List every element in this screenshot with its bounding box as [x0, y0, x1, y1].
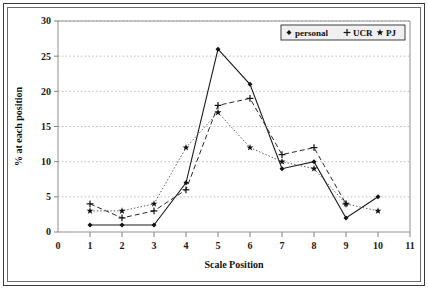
marker-ucr-x6 — [247, 95, 254, 102]
marker-personal-x2 — [120, 222, 125, 227]
series-markers-group — [87, 47, 382, 228]
y-tick-label-25: 25 — [41, 51, 51, 62]
x-tick-label-1: 1 — [88, 240, 93, 251]
marker-ucr-x4 — [183, 186, 190, 193]
gridlines-group — [58, 21, 410, 197]
series-line-ucr — [90, 98, 346, 218]
y-tick-label-20: 20 — [41, 86, 51, 97]
marker-ucr-x8 — [311, 144, 318, 151]
marker-personal-x8 — [312, 159, 317, 164]
x-axis-ticks-group: 01234567891011 — [56, 232, 415, 251]
y-tick-label-10: 10 — [41, 156, 51, 167]
x-tick-label-8: 8 — [312, 240, 317, 251]
marker-ucr-x5 — [215, 102, 222, 109]
x-tick-label-2: 2 — [120, 240, 125, 251]
x-tick-label-0: 0 — [56, 240, 61, 251]
marker-personal-x1 — [88, 222, 93, 227]
marker-pj-x10 — [375, 207, 382, 214]
x-tick-label-5: 5 — [216, 240, 221, 251]
chart-plot-area: 01234567891011 051015202530 personalUCRP… — [0, 0, 428, 289]
x-tick-label-9: 9 — [344, 240, 349, 251]
x-tick-label-10: 10 — [373, 240, 383, 251]
x-axis-label: Scale Position — [204, 259, 264, 270]
legend-label-pj: PJ — [386, 28, 396, 38]
x-tick-label-4: 4 — [184, 240, 189, 251]
y-axis-ticks-group: 051015202530 — [41, 15, 58, 237]
series-lines-group — [90, 49, 378, 225]
y-tick-label-30: 30 — [41, 15, 51, 26]
x-tick-label-7: 7 — [280, 240, 285, 251]
x-tick-label-3: 3 — [152, 240, 157, 251]
marker-ucr-x1 — [87, 200, 94, 207]
legend-label-personal: personal — [295, 28, 329, 38]
marker-personal-x7 — [280, 166, 285, 171]
marker-ucr-x3 — [151, 208, 158, 215]
y-tick-label-0: 0 — [46, 226, 51, 237]
legend-label-ucr: UCR — [353, 28, 373, 38]
y-tick-label-5: 5 — [46, 191, 51, 202]
marker-pj-x2 — [119, 207, 126, 214]
series-line-personal — [90, 49, 378, 225]
x-tick-label-6: 6 — [248, 240, 253, 251]
line-chart: 01234567891011 051015202530 personalUCRP… — [0, 0, 428, 289]
y-tick-label-15: 15 — [41, 121, 51, 132]
marker-pj-x1 — [87, 207, 94, 214]
chart-legend: personalUCRPJ — [281, 25, 405, 40]
marker-ucr-x7 — [279, 151, 286, 158]
figure-container: 01234567891011 051015202530 personalUCRP… — [0, 0, 428, 289]
marker-pj-x3 — [151, 200, 158, 207]
y-axis-label: % at each position — [13, 86, 24, 166]
marker-ucr-x2 — [119, 215, 126, 222]
x-tick-label-11: 11 — [405, 240, 414, 251]
